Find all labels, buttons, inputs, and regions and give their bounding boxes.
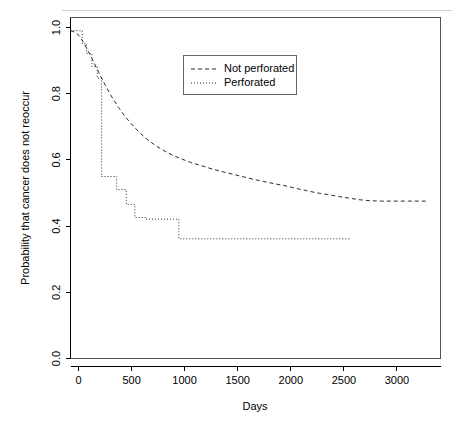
x-tick-label-0: 0 [75,374,81,386]
kaplan-meier-chart: 0.0 0.2 0.4 0.6 0.8 1.0 Probability that… [0,0,452,422]
x-tick-label-500: 500 [122,374,140,386]
x-tick-label-2000: 2000 [279,374,303,386]
y-tick-label-4: 0.8 [50,86,62,101]
y-axis: 0.0 0.2 0.4 0.6 0.8 1.0 Probability that… [19,18,71,367]
y-tick-label-2: 0.4 [50,218,62,233]
legend-label-perforated: Perforated [224,76,275,88]
x-tick-label-1000: 1000 [172,374,196,386]
x-axis: 0 500 1000 1500 2000 2500 3000 Days [71,367,441,413]
y-tick-label-5: 1.0 [50,20,62,35]
y-axis-title: Probability that cancer does not reoccur [19,91,31,285]
chart-canvas: 0.0 0.2 0.4 0.6 0.8 1.0 Probability that… [0,0,452,422]
x-tick-label-2500: 2500 [332,374,356,386]
y-tick-label-3: 0.6 [50,152,62,167]
x-tick-label-3000: 3000 [385,374,409,386]
legend-label-not-perforated: Not perforated [224,62,294,74]
y-tick-label-0: 0.0 [50,351,62,366]
x-tick-label-1500: 1500 [225,374,249,386]
legend: Not perforated Perforated [184,56,297,95]
x-axis-title: Days [242,400,268,412]
y-tick-label-1: 0.2 [50,285,62,300]
